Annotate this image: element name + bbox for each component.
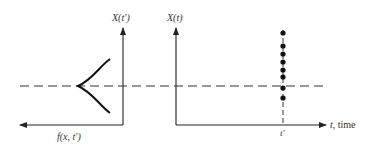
x-axis-text: , time [333, 119, 356, 130]
left-y-axis-label: X(t′) [111, 12, 130, 24]
sample-point [280, 85, 285, 90]
sample-point [280, 95, 285, 100]
left-x-axis-label: f(x, t′) [57, 131, 82, 143]
sample-point [280, 30, 285, 35]
left-panel: X(t′) f(x, t′) [20, 12, 130, 143]
right-panel: X(t) t′ t, time [166, 12, 356, 138]
sample-point [280, 59, 285, 64]
sample-point [280, 67, 285, 72]
tick-label-t-prime: t′ [280, 128, 286, 138]
right-x-axis-label: t, time [330, 119, 356, 130]
sample-point [280, 51, 285, 56]
sample-point [280, 74, 285, 79]
ensemble-diagram: X(t′) f(x, t′) X(t) t′ t, time [0, 0, 381, 145]
sample-point [280, 43, 285, 48]
right-y-axis-label: X(t) [166, 12, 183, 24]
